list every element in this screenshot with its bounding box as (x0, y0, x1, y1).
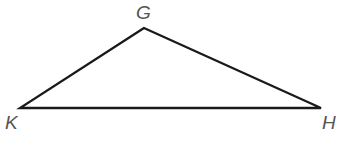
vertex-label-k: K (5, 113, 18, 132)
vertex-label-h: H (322, 113, 336, 132)
triangle-diagram (0, 0, 346, 144)
triangle-ghk (20, 28, 321, 108)
vertex-label-g: G (136, 3, 151, 22)
